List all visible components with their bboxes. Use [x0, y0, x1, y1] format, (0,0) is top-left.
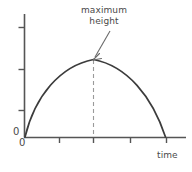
annotation-arrow-head	[93, 54, 102, 61]
projectile-height-figure: maximum height time 0 0	[0, 0, 192, 172]
x-axis-title: time	[157, 150, 178, 161]
x-axis-origin-label: 0	[19, 137, 25, 148]
annotation-line-1: maximum	[62, 5, 146, 16]
y-axis-origin-label: 0	[13, 126, 19, 137]
annotation-line-2: height	[62, 16, 146, 27]
annotation-arrow	[93, 31, 110, 60]
trajectory-curve	[25, 60, 166, 138]
y-axis-ticks	[19, 28, 25, 111]
max-height-annotation: maximum height	[62, 5, 146, 27]
x-axis-ticks	[60, 138, 167, 144]
annotation-arrow-shaft	[95, 31, 110, 57]
